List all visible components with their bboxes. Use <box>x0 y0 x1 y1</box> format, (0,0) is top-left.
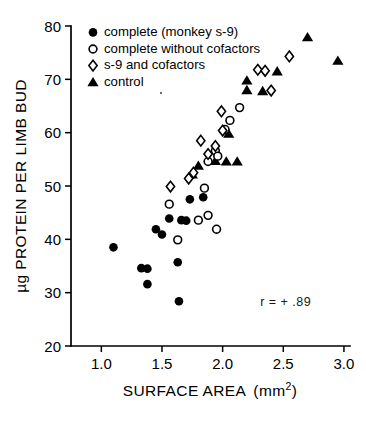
y-tick-label-50: 50 <box>44 178 61 195</box>
data-point-filled-circle-10 <box>182 216 191 225</box>
legend-label-3: control <box>104 74 144 89</box>
data-point-filled-circle-11 <box>186 195 195 204</box>
data-point-filled-triangle-6 <box>241 75 252 84</box>
y-axis-tick-labels: 20304050607080 <box>44 18 61 355</box>
x-axis-title-close: ) <box>292 382 298 399</box>
x-tick-label-2.5: 2.5 <box>273 355 294 372</box>
data-point-filled-triangle-4 <box>232 156 243 165</box>
data-point-open-circle-11 <box>236 104 244 112</box>
y-axis-ticks <box>65 26 71 346</box>
plot-svg: 20304050607080 1.01.52.02.53.0 µg PROTEI… <box>0 0 366 428</box>
x-axis-title-main: SURFACE AREA <box>123 382 247 399</box>
data-markers-layer <box>109 32 343 306</box>
data-point-open-circle-3 <box>204 211 212 219</box>
data-point-open-diamond-6 <box>217 106 225 117</box>
y-tick-label-20: 20 <box>44 338 61 355</box>
data-point-open-circle-8 <box>214 152 222 160</box>
x-tick-label-3.0: 3.0 <box>334 355 355 372</box>
legend-item-2[interactable]: s-9 and cofactors <box>89 57 206 72</box>
legend-item-1[interactable]: complete without cofactors <box>89 41 260 56</box>
y-tick-label-70: 70 <box>44 71 61 88</box>
x-axis-title-unit: (mm <box>253 382 285 399</box>
data-point-filled-circle-6 <box>165 214 174 223</box>
legend-label-0: complete (monkey s-9) <box>104 24 238 39</box>
legend-marker-filled-circle <box>89 28 98 37</box>
data-point-open-circle-5 <box>201 184 209 192</box>
legend-label-2: s-9 and cofactors <box>104 57 206 72</box>
y-axis-title: µg PROTEIN PER LIMB BUD <box>12 79 29 293</box>
series-filled-circle <box>109 193 207 306</box>
data-point-filled-circle-7 <box>173 258 182 267</box>
legend-marker-open-diamond <box>89 60 97 71</box>
y-tick-label-60: 60 <box>44 124 61 141</box>
data-point-filled-circle-3 <box>143 280 152 289</box>
data-point-filled-circle-12 <box>199 193 208 202</box>
data-point-filled-circle-2 <box>143 264 152 273</box>
legend-marker-filled-triangle <box>87 77 98 86</box>
data-point-open-diamond-9 <box>261 66 269 77</box>
x-tick-label-1.5: 1.5 <box>152 355 173 372</box>
annotation-correlation: r = + .89 <box>260 295 311 309</box>
y-tick-label-80: 80 <box>44 18 61 35</box>
data-point-filled-triangle-9 <box>272 66 283 75</box>
data-point-filled-circle-0 <box>109 243 118 252</box>
data-point-open-circle-4 <box>213 225 221 233</box>
y-tick-label-30: 30 <box>44 284 61 301</box>
scatter-plot-figure: 20304050607080 1.01.52.02.53.0 µg PROTEI… <box>0 0 366 428</box>
data-point-filled-triangle-7 <box>241 85 252 94</box>
data-point-open-circle-1 <box>174 236 182 244</box>
legend-item-3[interactable]: control <box>87 74 143 89</box>
data-point-open-diamond-3 <box>197 135 205 146</box>
x-axis-tick-labels: 1.01.52.02.53.0 <box>91 355 354 372</box>
data-point-open-circle-2 <box>194 216 202 224</box>
data-point-open-diamond-0 <box>166 181 174 192</box>
x-axis-ticks <box>101 346 344 352</box>
data-point-open-diamond-10 <box>267 85 275 96</box>
scan-speck <box>160 92 162 94</box>
data-point-filled-circle-8 <box>175 297 184 306</box>
data-point-open-diamond-8 <box>254 64 262 75</box>
data-point-filled-triangle-11 <box>332 55 343 64</box>
y-tick-label-40: 40 <box>44 231 61 248</box>
legend-label-1: complete without cofactors <box>104 41 261 56</box>
x-tick-label-2.0: 2.0 <box>212 355 233 372</box>
series-open-circle <box>165 104 243 244</box>
data-point-open-circle-0 <box>165 200 173 208</box>
annotation-layer: r = + .89 <box>260 295 311 309</box>
legend-item-0[interactable]: complete (monkey s-9) <box>89 24 238 39</box>
data-point-filled-circle-5 <box>158 230 167 239</box>
legend: complete (monkey s-9)complete without co… <box>87 24 260 89</box>
data-point-filled-triangle-3 <box>221 156 232 165</box>
data-point-open-diamond-11 <box>285 51 293 62</box>
x-tick-label-1.0: 1.0 <box>91 355 112 372</box>
x-axis-title: SURFACE AREA(mm2) <box>123 380 298 399</box>
legend-marker-open-circle <box>89 45 97 53</box>
data-point-open-circle-10 <box>226 117 234 125</box>
data-point-filled-triangle-10 <box>302 32 313 41</box>
